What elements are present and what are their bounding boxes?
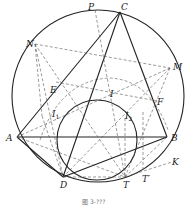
label-I1: I1: [51, 109, 59, 120]
figure-caption: 图 3-???: [82, 198, 105, 206]
geometry-diagram: P C N M E I F I1 I2 A B D T T′ K 图 3-???: [0, 0, 193, 207]
label-C: C: [121, 2, 128, 12]
label-I2: I2: [124, 111, 133, 122]
label-T-prime: T′: [142, 174, 150, 184]
label-A: A: [5, 133, 13, 143]
line-BT: [125, 137, 167, 177]
label-B: B: [170, 133, 178, 143]
line-MA: [17, 68, 170, 137]
line-EF: [56, 82, 157, 101]
label-F: F: [156, 97, 164, 107]
label-P: P: [87, 2, 95, 12]
segment-DB: [63, 137, 167, 177]
label-I: I: [109, 89, 114, 99]
line-NT: [35, 44, 125, 177]
label-T: T: [123, 180, 130, 190]
line-NI1: [35, 44, 42, 116]
label-N: N: [25, 39, 35, 49]
label-M: M: [172, 62, 183, 72]
label-E: E: [49, 85, 57, 95]
label-D: D: [59, 180, 67, 190]
line-NM: [35, 44, 170, 68]
label-K: K: [171, 157, 180, 167]
segment-AC: [17, 12, 120, 137]
